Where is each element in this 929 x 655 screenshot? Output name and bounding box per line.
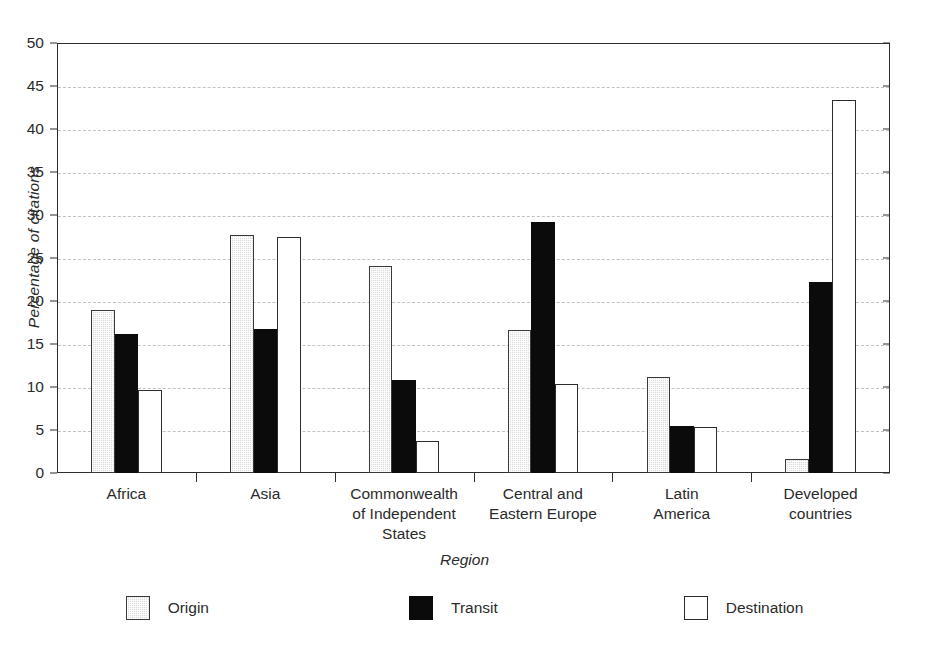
legend-swatch-destination-icon [684,596,708,620]
x-category-label: Commonwealthof IndependentStates [327,484,482,544]
bar-destination [416,441,440,473]
x-category-label-line: Commonwealth [327,484,482,504]
x-tick-mark [612,473,613,482]
legend-item-destination: Destination [684,596,804,620]
x-category-label-line: Africa [49,484,204,504]
x-tick-mark [474,473,475,482]
x-category-label-line: of Independent [327,504,482,524]
bar-transit [809,282,833,473]
bar-transit [392,380,416,473]
x-category-label-line: America [604,504,759,524]
x-category-label: Africa [49,484,204,504]
legend-label: Destination [726,599,804,617]
legend-swatch-origin-icon [126,596,150,620]
x-category-label: LatinAmerica [604,484,759,524]
y-tick-mark [50,172,57,173]
y-tick-mark [50,43,57,44]
bar-transit [254,329,278,473]
y-tick-mark [50,258,57,259]
gridline [58,345,889,346]
y-tick-mark [50,387,57,388]
x-category-label-line: Latin [604,484,759,504]
gridline [58,87,889,88]
y-tick-mark [50,86,57,87]
y-tick-label: 50 [2,34,44,52]
y-axis-title: Percentage of citations [25,67,43,427]
bar-transit [531,222,555,473]
legend-label: Transit [451,599,498,617]
y-tick-mark [50,430,57,431]
y-tick-mark [50,215,57,216]
chart-legend: OriginTransitDestination [0,596,929,620]
bar-origin [91,310,115,473]
bar-destination [277,237,301,474]
y-tick-label: 0 [2,464,44,482]
bar-transit [670,426,694,473]
x-category-label-line: Asia [188,484,343,504]
bar-origin [230,235,254,473]
gridline [58,431,889,432]
x-category-label: Asia [188,484,343,504]
gridline [58,259,889,260]
x-category-label-line: Central and [466,484,621,504]
bar-chart-figure: Percentage of citations 0510152025303540… [0,0,929,655]
y-tick-mark [50,129,57,130]
bar-origin [508,330,532,473]
gridline [58,173,889,174]
x-category-label-line: countries [743,504,898,524]
x-tick-mark [751,473,752,482]
bar-origin [785,459,809,473]
bar-origin [647,377,671,473]
legend-swatch-transit-icon [409,596,433,620]
bar-destination [138,390,162,473]
gridline [58,216,889,217]
x-axis-title: Region [0,551,929,569]
gridline [58,302,889,303]
x-category-label-line: States [327,524,482,544]
bar-destination [832,100,856,473]
x-tick-mark [335,473,336,482]
y-tick-mark [50,301,57,302]
legend-item-transit: Transit [409,596,498,620]
gridline [58,388,889,389]
y-tick-mark [50,344,57,345]
legend-item-origin: Origin [126,596,209,620]
legend-label: Origin [168,599,209,617]
y-tick-mark [50,473,57,474]
gridline [58,130,889,131]
bar-destination [555,384,579,473]
x-tick-mark [196,473,197,482]
x-category-label-line: Developed [743,484,898,504]
bar-origin [369,266,393,473]
x-category-label: Developedcountries [743,484,898,524]
plot-area [57,43,890,473]
bar-transit [115,334,139,473]
x-category-label-line: Eastern Europe [466,504,621,524]
bar-destination [694,427,718,473]
x-category-label: Central andEastern Europe [466,484,621,524]
